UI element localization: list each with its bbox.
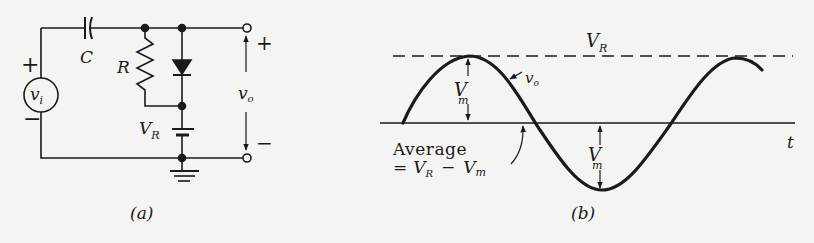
source-plus-label: +: [21, 52, 39, 77]
node-dot: [179, 155, 186, 162]
vo-signal-label: vo: [525, 69, 539, 88]
average-pointer-arrow: [511, 126, 523, 164]
source-label: vi: [30, 84, 43, 107]
time-axis-label: t: [787, 132, 794, 152]
figure-canvas: + − vi C R VR + − vo (a) VR vo Vm Vm t A…: [0, 0, 814, 243]
output-terminal-minus: [243, 154, 251, 162]
capacitor-label: C: [80, 47, 93, 67]
average-label: Average: [392, 139, 467, 159]
vr-level-label: VR: [586, 30, 607, 55]
circuit-diagram: [24, 17, 251, 181]
node-dot: [179, 25, 186, 32]
average-formula: =VR−Vm: [393, 157, 486, 179]
resistor-zigzag: [137, 28, 182, 106]
output-terminal-plus: [243, 24, 251, 32]
vo-pointer-arrow: [510, 72, 522, 79]
node-dot: [179, 103, 186, 110]
caption-a: (a): [130, 203, 153, 223]
source-minus-label: −: [23, 106, 41, 131]
node-dot: [142, 25, 149, 32]
vm-bottom-label: Vm: [588, 144, 603, 172]
diode-triangle: [173, 60, 191, 74]
caption-b: (b): [571, 203, 595, 223]
resistor-label: R: [116, 57, 130, 77]
vm-top-label: Vm: [454, 79, 469, 107]
output-minus-label: −: [256, 131, 273, 155]
battery-label: VR: [139, 118, 160, 142]
output-label: vo: [238, 83, 254, 104]
output-plus-label: +: [256, 31, 273, 55]
